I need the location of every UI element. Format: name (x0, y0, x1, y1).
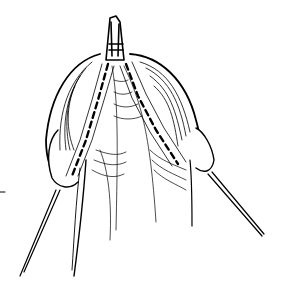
illustration (0, 0, 284, 298)
surgical-line-drawing (0, 0, 284, 298)
clamp-icon (106, 16, 124, 60)
left-tissue-flap (46, 54, 100, 187)
left-suture-line (66, 64, 114, 176)
suture-threads (20, 172, 264, 276)
